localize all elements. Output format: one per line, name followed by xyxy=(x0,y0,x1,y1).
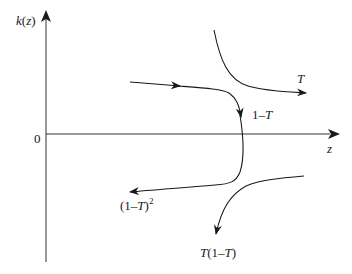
curve-1-minus-T-segment-b xyxy=(178,86,241,117)
curve-1-minus-T-squared xyxy=(130,115,243,192)
curve-T-times-1-minus-T xyxy=(216,176,304,234)
curve-1-minus-T-segment-a xyxy=(130,82,180,86)
label-1-minus-T: 1–T xyxy=(252,108,272,121)
phase-diagram xyxy=(0,0,352,274)
exponent: 2 xyxy=(149,196,154,206)
curve-T xyxy=(214,30,306,93)
x-axis-label: z xyxy=(327,142,332,155)
label-T: T xyxy=(297,72,304,85)
origin-label: 0 xyxy=(34,132,41,145)
label-1-minus-T-squared: (1–T)2 xyxy=(120,199,153,212)
y-axis-label: k(z) xyxy=(16,14,36,27)
label-T-times-1-minus-T: T(1–T) xyxy=(200,246,236,259)
